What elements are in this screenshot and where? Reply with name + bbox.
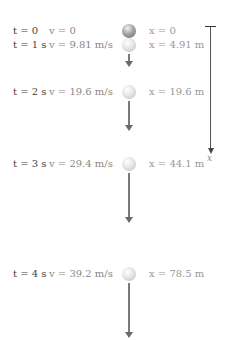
- position-label: x = 44.1 m: [149, 157, 204, 171]
- row-t0: t = 0 v = 0 x = 0: [0, 24, 225, 38]
- position-label: x = 4.91 m: [149, 38, 204, 52]
- velocity-label: v = 9.81 m/s: [49, 38, 113, 52]
- axis-label: x: [207, 153, 212, 163]
- ball-icon: [122, 38, 136, 52]
- velocity-label: v = 39.2 m/s: [49, 267, 113, 281]
- position-label: x = 78.5 m: [149, 267, 204, 281]
- position-axis: [210, 27, 211, 149]
- time-label: t = 3 s: [13, 157, 46, 171]
- position-label: x = 0: [149, 24, 176, 38]
- row-t2: t = 2 s v = 19.6 m/s x = 19.6 m: [0, 85, 225, 99]
- velocity-label: v = 0: [49, 24, 76, 38]
- velocity-arrow-icon: [128, 101, 130, 126]
- position-label: x = 19.6 m: [149, 85, 204, 99]
- time-label: t = 1 s: [13, 38, 46, 52]
- velocity-arrow-icon: [128, 283, 130, 333]
- ball-icon: [122, 85, 136, 99]
- time-label: t = 2 s: [13, 85, 46, 99]
- velocity-label: v = 19.6 m/s: [49, 85, 113, 99]
- row-t3: t = 3 s v = 29.4 m/s x = 44.1 m: [0, 157, 225, 171]
- time-label: t = 4 s: [13, 267, 46, 281]
- ball-icon: [122, 267, 136, 281]
- row-t4: t = 4 s v = 39.2 m/s x = 78.5 m: [0, 267, 225, 281]
- velocity-arrow-icon: [128, 173, 130, 218]
- velocity-arrow-icon: [128, 54, 130, 62]
- ball-icon: [122, 24, 136, 38]
- row-t1: t = 1 s v = 9.81 m/s x = 4.91 m: [0, 38, 225, 52]
- time-label: t = 0: [13, 24, 38, 38]
- velocity-label: v = 29.4 m/s: [49, 157, 113, 171]
- ball-icon: [122, 157, 136, 171]
